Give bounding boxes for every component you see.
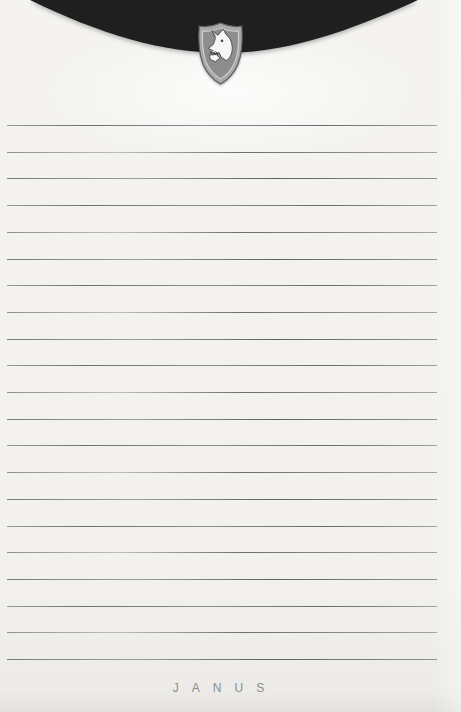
ruled-line — [7, 205, 437, 206]
ruled-line — [7, 259, 437, 260]
ruled-line — [7, 152, 437, 153]
ruled-lines — [0, 0, 461, 712]
ruled-line — [7, 232, 437, 233]
ruled-line — [7, 499, 437, 500]
ruled-line — [7, 472, 437, 473]
ruled-line — [7, 339, 437, 340]
ruled-line — [7, 125, 437, 126]
ruled-line — [7, 659, 437, 660]
ruled-line — [7, 632, 437, 633]
ruled-line — [7, 178, 437, 179]
ruled-line — [7, 392, 437, 393]
brand-janus: JANUS — [0, 681, 437, 695]
ruled-line — [7, 526, 437, 527]
notepad-page: JANUS — [0, 0, 461, 712]
ruled-line — [7, 365, 437, 366]
ruled-line — [7, 419, 437, 420]
brand-text: JANUS — [173, 681, 277, 695]
ruled-line — [7, 552, 437, 553]
ruled-line — [7, 445, 437, 446]
ruled-line — [7, 285, 437, 286]
ruled-line — [7, 312, 437, 313]
wolf-head-shield-icon — [195, 21, 246, 86]
wolf-eye — [221, 39, 224, 42]
ruled-line — [7, 579, 437, 580]
ruled-line — [7, 606, 437, 607]
